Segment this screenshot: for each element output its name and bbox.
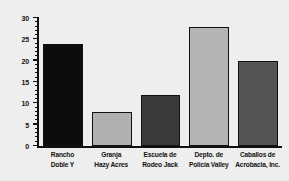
bar-chart: 051015202530 RanchoDoble YGranjaHazy Acr… <box>0 0 289 181</box>
bar[interactable] <box>43 44 83 146</box>
bar-slot <box>233 18 282 146</box>
y-axis-tick-label: 5 <box>25 121 29 128</box>
y-axis-tick-label: 30 <box>22 15 29 22</box>
bars-layer <box>38 18 282 146</box>
y-axis-tick-label: 0 <box>25 143 29 150</box>
x-axis-category-label-line: Caballos de <box>228 150 288 160</box>
bar-slot <box>38 18 87 146</box>
bar[interactable] <box>141 95 181 146</box>
y-axis-tick-label: 15 <box>22 79 29 86</box>
bar[interactable] <box>92 112 132 146</box>
plot-area: 051015202530 <box>38 18 282 146</box>
bar[interactable] <box>238 61 278 146</box>
bar-slot <box>87 18 136 146</box>
y-axis-tick-label: 20 <box>22 57 29 64</box>
y-axis-tick-label: 25 <box>22 36 29 43</box>
bar[interactable] <box>189 27 229 146</box>
bar-slot <box>184 18 233 146</box>
x-axis-category-label: Caballos deAcrobacia, Inc. <box>228 150 288 169</box>
bar-slot <box>136 18 185 146</box>
y-axis-tick-label: 10 <box>22 100 29 107</box>
x-axis-line <box>37 146 282 148</box>
x-axis-category-label-line: Acrobacia, Inc. <box>228 160 288 170</box>
x-axis-category-labels: RanchoDoble YGranjaHazy AcresEscuela deR… <box>38 150 282 178</box>
